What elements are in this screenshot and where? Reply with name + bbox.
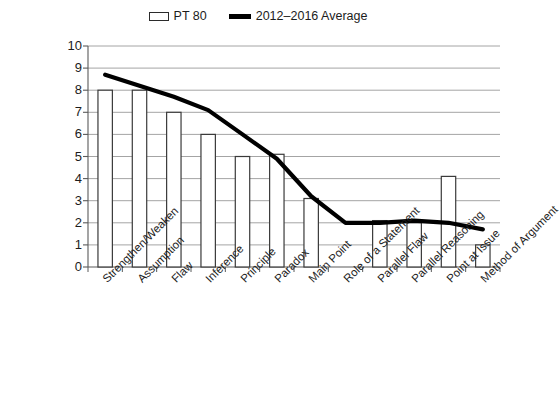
x-axis-tick-label: Paradox	[273, 247, 311, 285]
x-axis-tick-label: Flaw	[170, 260, 195, 285]
